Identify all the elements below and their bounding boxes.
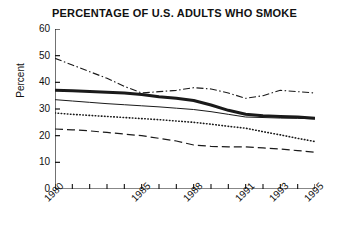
x-tick-label: 1993 bbox=[267, 180, 291, 204]
x-axis-tick-labels: 198019851988199119931995 bbox=[0, 0, 349, 238]
x-tick-label: 1991 bbox=[233, 180, 257, 204]
x-tick-label: 1995 bbox=[302, 180, 326, 204]
x-tick-label: 1985 bbox=[129, 180, 153, 204]
x-tick-label: 1980 bbox=[42, 180, 66, 204]
x-tick-label: 1988 bbox=[181, 180, 205, 204]
chart-figure: PERCENTAGE OF U.S. ADULTS WHO SMOKE Perc… bbox=[0, 0, 349, 238]
